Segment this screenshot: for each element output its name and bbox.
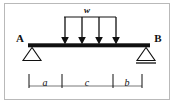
dimension-label-c: c xyxy=(85,77,90,88)
dimension-label-a: a xyxy=(43,77,48,88)
support-pin-a xyxy=(23,48,41,61)
load-arrow-3 xyxy=(95,17,103,45)
support-label-b: B xyxy=(154,32,162,44)
load-arrow-1 xyxy=(61,17,69,45)
load-arrow-2 xyxy=(78,17,86,45)
beam-diagram-figure: w A B a c b xyxy=(0,0,175,105)
dimension-line-group: a c b xyxy=(29,74,142,88)
support-label-a: A xyxy=(16,32,24,44)
dimension-label-b: b xyxy=(125,77,130,88)
load-arrow-4 xyxy=(112,17,120,45)
beam-member xyxy=(28,43,150,47)
distributed-load-group: w xyxy=(61,5,120,45)
load-label: w xyxy=(84,5,91,15)
beam-diagram-canvas: w A B a c b xyxy=(0,0,175,105)
support-roller-b xyxy=(136,48,156,64)
